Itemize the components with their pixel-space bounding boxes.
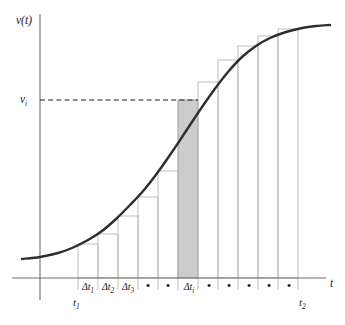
t1-endpoint-label: t1 bbox=[73, 296, 80, 311]
interval-width-label: Δt2 bbox=[101, 281, 115, 295]
interval-ellipsis-dot: • bbox=[287, 278, 292, 293]
interval-ellipsis-dot: • bbox=[247, 278, 252, 293]
interval-width-label: Δt1 bbox=[81, 281, 94, 295]
interval-ellipsis-dot: • bbox=[267, 278, 272, 293]
interval-width-label: Δt3 bbox=[121, 281, 135, 295]
riemann-bars-group bbox=[78, 29, 298, 290]
interval-labels-group: Δt1Δt2Δt3••Δti••••• bbox=[81, 278, 291, 295]
interval-width-label: Δti bbox=[183, 281, 195, 295]
riemann-bar bbox=[258, 36, 278, 278]
plot-canvas: v(t) t vi t1 t2 Δt1Δt2Δt3••Δti••••• bbox=[0, 0, 345, 325]
riemann-bar bbox=[278, 29, 298, 278]
interval-ellipsis-dot: • bbox=[146, 278, 151, 293]
interval-ellipsis-dot: • bbox=[227, 278, 232, 293]
y-axis-label: v(t) bbox=[16, 14, 32, 27]
t2-endpoint-label: t2 bbox=[299, 296, 306, 311]
labels-group: v(t) t vi t1 t2 bbox=[16, 14, 334, 311]
riemann-bar bbox=[238, 46, 258, 278]
riemann-bar bbox=[118, 216, 138, 278]
riemann-bar bbox=[98, 234, 118, 278]
interval-ellipsis-dot: • bbox=[207, 278, 212, 293]
riemann-bar bbox=[158, 171, 178, 278]
interval-ellipsis-dot: • bbox=[166, 278, 171, 293]
riemann-bar bbox=[138, 197, 158, 278]
riemann-bar bbox=[198, 82, 218, 278]
riemann-bar bbox=[218, 60, 238, 278]
x-axis-label: t bbox=[330, 277, 334, 289]
velocity-curve bbox=[22, 25, 330, 259]
riemann-bar bbox=[78, 244, 98, 278]
riemann-sum-figure: v(t) t vi t1 t2 Δt1Δt2Δt3••Δti••••• bbox=[0, 0, 345, 325]
vi-value-label: vi bbox=[20, 93, 27, 108]
